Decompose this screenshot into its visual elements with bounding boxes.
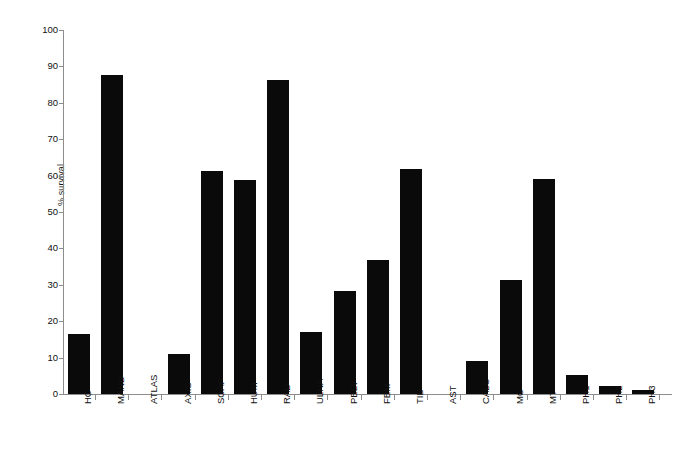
bar-rad — [267, 80, 289, 394]
x-axis-tick-mark — [493, 395, 494, 400]
bar-fem — [367, 260, 389, 394]
x-axis-tick-mark — [427, 395, 428, 400]
x-axis-label-ulna: ULNA — [315, 379, 325, 404]
x-axis-label-ph1: PH1 — [581, 386, 591, 404]
y-axis-tick-mark — [59, 139, 64, 140]
y-axis-tick-mark — [59, 30, 64, 31]
y-axis-tick-mark — [59, 103, 64, 104]
y-axis-tick-label: 30 — [26, 280, 58, 290]
x-axis-label-pelv: PELV — [349, 380, 359, 404]
x-axis-label-ph3: PH3 — [647, 386, 657, 404]
x-axis-label-calc: CALC — [481, 379, 491, 404]
x-axis-tick-mark — [560, 395, 561, 400]
y-axis-tick-mark — [59, 394, 64, 395]
bar-pelv — [334, 291, 356, 394]
bar-scap — [201, 171, 223, 394]
y-axis-tick-label: 40 — [26, 243, 58, 253]
x-axis-label-tib: TIB — [415, 389, 425, 404]
bar-chart: % survival 0102030405060708090100 HCMAND… — [0, 0, 694, 452]
x-axis-tick-mark — [593, 395, 594, 400]
y-axis-tick-label: 90 — [26, 61, 58, 71]
x-axis-tick-mark — [161, 395, 162, 400]
bar-mc — [500, 280, 522, 394]
bar-tib — [400, 169, 422, 394]
x-axis-label-ast: AST — [448, 386, 458, 404]
x-axis-tick-mark — [195, 395, 196, 400]
x-axis-label-ph2: PH2 — [614, 386, 624, 404]
x-axis-tick-mark — [128, 395, 129, 400]
y-axis-tick-mark — [59, 285, 64, 286]
x-axis-tick-mark — [228, 395, 229, 400]
x-axis-tick-mark — [261, 395, 262, 400]
x-axis-label-fem: FEM — [382, 384, 392, 404]
x-axis-tick-mark — [460, 395, 461, 400]
bar-mand — [101, 75, 123, 394]
x-axis-label-rad: RAD — [282, 384, 292, 404]
x-axis-label-hc: HC — [83, 390, 93, 404]
x-axis-label-scap: SCAP — [216, 378, 226, 404]
x-axis-tick-mark — [659, 395, 660, 400]
bar-mt — [533, 179, 555, 394]
bar-hc — [68, 334, 90, 394]
x-axis-label-axis: AXIS — [183, 382, 193, 404]
y-axis-tick-mark — [59, 212, 64, 213]
x-axis-tick-mark — [327, 395, 328, 400]
x-axis-label-atlas: ATLAS — [149, 375, 159, 404]
y-axis-tick-label: 60 — [26, 171, 58, 181]
x-axis-label-mand: MAND — [116, 376, 126, 404]
y-axis-tick-mark — [59, 66, 64, 67]
x-axis-tick-mark — [294, 395, 295, 400]
y-axis-tick-label: 70 — [26, 134, 58, 144]
y-axis-tick-mark — [59, 176, 64, 177]
x-axis-tick-mark — [95, 395, 96, 400]
y-axis-tick-labels: 0102030405060708090100 — [26, 0, 58, 452]
y-axis-tick-label: 50 — [26, 207, 58, 217]
y-axis-tick-label: 20 — [26, 316, 58, 326]
y-axis-tick-label: 80 — [26, 98, 58, 108]
y-axis-tick-mark — [59, 248, 64, 249]
y-axis-tick-label: 100 — [26, 25, 58, 35]
y-axis-tick-mark — [59, 358, 64, 359]
y-axis-tick-label: 0 — [26, 389, 58, 399]
x-axis-label-mt: MT — [548, 390, 558, 404]
x-axis-tick-mark — [626, 395, 627, 400]
x-axis-tick-mark — [394, 395, 395, 400]
bar-hum — [234, 180, 256, 394]
x-axis-label-hum: HUM — [249, 382, 259, 404]
y-axis-tick-label: 10 — [26, 353, 58, 363]
x-axis-label-mc: MC — [515, 389, 525, 404]
y-axis-tick-mark — [59, 321, 64, 322]
x-axis-tick-mark — [361, 395, 362, 400]
x-axis-tick-mark — [527, 395, 528, 400]
